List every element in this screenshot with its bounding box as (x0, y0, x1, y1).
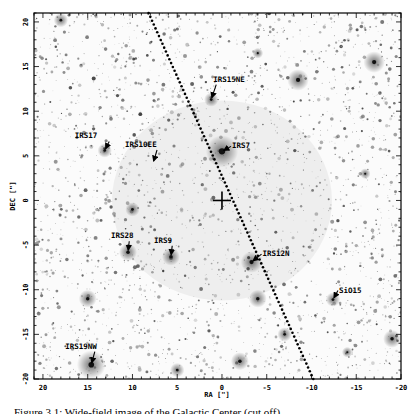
y-tick-label: 20 (22, 18, 30, 26)
y-tick-label: -5 (22, 241, 30, 249)
source-label-irs19nw: IRS19NW (65, 342, 97, 351)
x-tick-label: -10 (305, 384, 318, 392)
source-label-irs7: IRS7 (232, 141, 250, 150)
y-tick-label: 0 (22, 198, 30, 202)
source-label-irs17: IRS17 (75, 131, 98, 140)
y-tick-label: 15 (22, 62, 30, 70)
y-axis-label: DEC ["] (9, 181, 17, 211)
y-tick-label: -20 (22, 373, 30, 386)
x-tick-label: 10 (128, 384, 136, 392)
x-tick-label: 15 (83, 384, 91, 392)
x-tick-label: -5 (263, 384, 271, 392)
x-tick-label: 5 (175, 384, 179, 392)
source-label-irs9: IRS9 (154, 236, 173, 245)
source-label-irs15ne: IRS15NE (213, 75, 245, 84)
x-axis-label: RA ["] (204, 391, 229, 399)
source-label-irs10ee: IRS10EE (125, 140, 157, 149)
x-tick-label: -15 (350, 384, 363, 392)
y-tick-label: 10 (22, 107, 30, 115)
x-tick-label: -20 (395, 384, 408, 392)
figure-caption: Figure 3.1: Wide-field image of the Gala… (14, 406, 414, 414)
source-label-irs12n: IRS12N (263, 249, 291, 258)
y-tick-label: -15 (22, 328, 30, 341)
x-tick-label: 20 (39, 384, 47, 392)
source-label-sio15: SiO15 (339, 286, 362, 295)
y-tick-label: -10 (22, 283, 30, 296)
source-label-irs28: IRS28 (111, 231, 134, 240)
sky-image-figure: IRS15NEIRS17IRS10EEIRS7IRS28IRS9IRS12NSi… (0, 0, 419, 414)
y-tick-label: 5 (22, 154, 30, 158)
